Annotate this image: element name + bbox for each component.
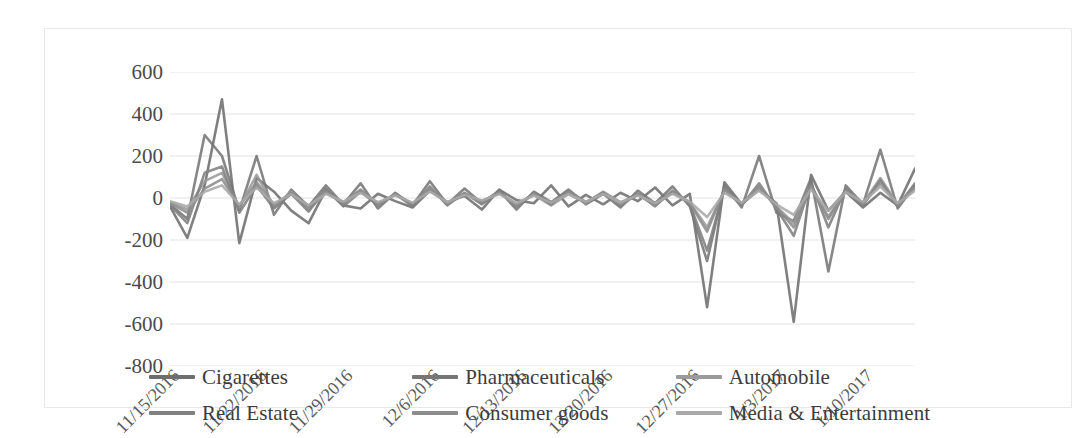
legend-item-label: Cigarettes <box>202 365 288 390</box>
legend-item-label: Pharmaceuticals <box>465 365 604 390</box>
plot-area <box>170 72 915 366</box>
legend-item-label: Automobile <box>729 365 830 390</box>
y-axis-tick-label: -400 <box>93 272 163 293</box>
y-axis-tick-label: -600 <box>93 314 163 335</box>
legend-item[interactable]: Real Estate <box>149 401 412 426</box>
chart-legend: CigarettesPharmaceuticalsAutomobileReal … <box>149 359 939 431</box>
legend-item-label: Real Estate <box>202 401 298 426</box>
legend-item[interactable]: Consumer goods <box>412 401 675 426</box>
legend-item[interactable]: Cigarettes <box>149 365 412 390</box>
legend-item[interactable]: Pharmaceuticals <box>412 365 675 390</box>
y-axis-tick-label: 0 <box>93 188 163 209</box>
legend-color-swatch-icon <box>149 411 195 415</box>
y-axis-tick-label: 200 <box>93 146 163 167</box>
y-axis-tick-label: 600 <box>93 62 163 83</box>
legend-item-label: Media & Entertainment <box>729 401 931 426</box>
y-axis-tick-label: -200 <box>93 230 163 251</box>
y-axis: 6004002000-200-400-600-800 <box>75 72 163 366</box>
legend-item-label: Consumer goods <box>465 401 608 426</box>
y-axis-tick-label: 400 <box>93 104 163 125</box>
legend-item[interactable]: Automobile <box>676 365 939 390</box>
legend-color-swatch-icon <box>412 375 458 379</box>
legend-color-swatch-icon <box>149 375 195 379</box>
legend-color-swatch-icon <box>676 375 722 379</box>
line-chart-svg <box>170 72 915 366</box>
legend-color-swatch-icon <box>412 411 458 415</box>
legend-item[interactable]: Media & Entertainment <box>676 401 939 426</box>
legend-color-swatch-icon <box>676 411 722 415</box>
chart-frame: 6004002000-200-400-600-800 11/15/201611/… <box>44 28 1072 408</box>
